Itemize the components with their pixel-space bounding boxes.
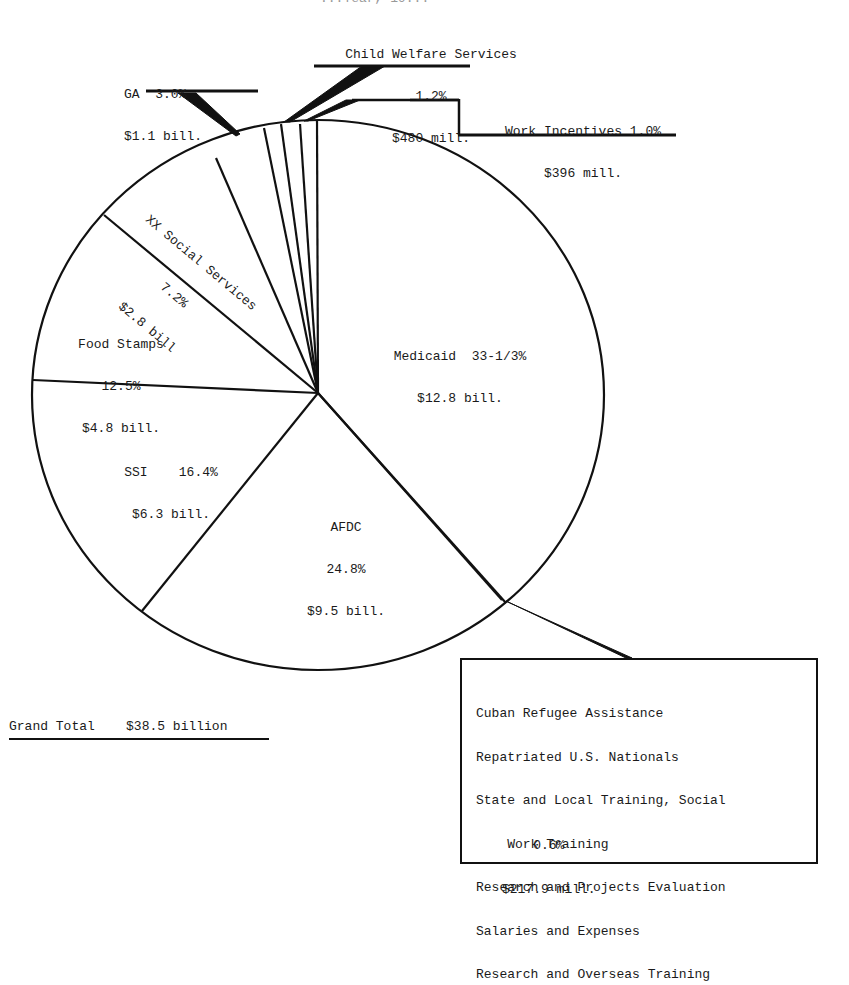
- child-welfare-name: Child Welfare Services: [316, 48, 546, 62]
- other-item: Research and Overseas Training: [476, 968, 726, 983]
- boundary-work-medicaid: [317, 120, 318, 393]
- leader-other: [506, 601, 632, 658]
- medicaid-pct: 33-1/3%: [472, 349, 527, 364]
- ssi-pct: 16.4%: [179, 465, 218, 480]
- grand-total-label: Grand Total: [9, 719, 95, 734]
- ssi-name: SSI: [124, 465, 147, 480]
- grand-total: Grand Total $38.5 billion: [9, 720, 269, 740]
- label-ga: GA 3.0% $1.1 bill.: [124, 60, 202, 158]
- medicaid-name: Medicaid: [394, 349, 456, 364]
- label-ssi: SSI 16.4% $6.3 bill.: [96, 438, 246, 536]
- label-work-incentives: Work Incentives 1.0% $396 mill.: [478, 97, 688, 195]
- other-programs-box: Cuban Refugee Assistance Repatriated U.S…: [460, 658, 818, 864]
- work-incentives-name: Work Incentives: [505, 124, 622, 139]
- label-food-stamps: Food Stamps 12.5% $4.8 bill.: [66, 310, 176, 450]
- other-pct: 0.6%: [502, 839, 596, 854]
- other-item: Repatriated U.S. Nationals: [476, 751, 726, 766]
- ssi-amount: $6.3 bill.: [96, 508, 246, 522]
- other-item: State and Local Training, Social: [476, 794, 726, 809]
- label-medicaid: Medicaid 33-1/3% $12.8 bill.: [370, 322, 550, 420]
- afdc-amount: $9.5 bill.: [296, 605, 396, 619]
- afdc-pct: 24.8%: [296, 563, 396, 577]
- food-stamps-pct: 12.5%: [66, 380, 176, 394]
- food-stamps-amount: $4.8 bill.: [66, 422, 176, 436]
- afdc-name: AFDC: [296, 521, 396, 535]
- ga-name: GA: [124, 87, 140, 102]
- work-incentives-amount: $396 mill.: [478, 167, 688, 181]
- medicaid-amount: $12.8 bill.: [370, 392, 550, 406]
- work-incentives-pct: 1.0%: [630, 124, 661, 139]
- food-stamps-name: Food Stamps: [66, 338, 176, 352]
- label-afdc: AFDC 24.8% $9.5 bill.: [296, 493, 396, 633]
- other-amount: $217.9 mill.: [502, 883, 596, 898]
- grand-total-value: $38.5 billion: [126, 719, 227, 734]
- ga-pct: 3.0%: [155, 87, 186, 102]
- other-item: Cuban Refugee Assistance: [476, 707, 726, 722]
- other-programs-totals: 0.6% $217.9 mill.: [502, 810, 596, 926]
- ga-amount: $1.1 bill.: [124, 130, 202, 144]
- other-item: Salaries and Expenses: [476, 925, 726, 940]
